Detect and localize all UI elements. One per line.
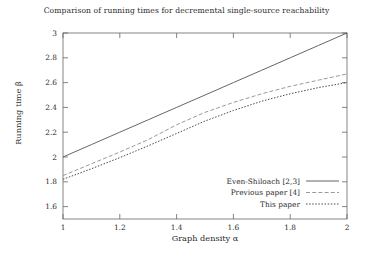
y-tick-label: 2.4 (45, 103, 57, 112)
x-tick-label: 1 (61, 223, 66, 232)
data-series-group (63, 33, 347, 179)
y-tick-label: 1.8 (45, 177, 57, 186)
x-tick-label: 1.2 (114, 223, 126, 232)
y-tick-label: 2 (52, 153, 57, 162)
y-tick-label: 2.6 (45, 78, 57, 87)
x-tick-label: 1.4 (171, 223, 183, 232)
y-tick-label: 2.2 (45, 128, 57, 137)
series-line-1 (63, 74, 347, 176)
plot-frame (63, 33, 347, 219)
legend-label-2: This paper (260, 200, 300, 209)
y-tick-label: 1.6 (45, 202, 57, 211)
y-tick-label: 2.8 (45, 53, 57, 62)
chart-title: Comparison of running times for decremen… (0, 6, 373, 15)
x-axis-ticks: 11.21.41.61.82 (61, 33, 350, 232)
series-line-0 (63, 33, 347, 157)
x-tick-label: 1.8 (284, 223, 296, 232)
legend: Even-Shiloach [2,3]Previous paper [4]Thi… (227, 177, 339, 209)
y-axis-ticks: 1.61.822.22.42.62.83 (45, 29, 347, 212)
x-axis-label: Graph density α (63, 233, 347, 243)
legend-label-1: Previous paper [4] (231, 188, 300, 197)
x-tick-label: 2 (345, 223, 350, 232)
y-tick-label: 3 (52, 29, 57, 38)
plot-canvas: 1.61.822.22.42.62.83 11.21.41.61.82 Even… (0, 0, 373, 257)
series-line-2 (63, 83, 347, 180)
x-tick-label: 1.6 (228, 223, 240, 232)
chart-figure: Comparison of running times for decremen… (0, 0, 373, 257)
legend-label-0: Even-Shiloach [2,3] (227, 177, 300, 186)
y-axis-label: Running time β (13, 53, 23, 173)
